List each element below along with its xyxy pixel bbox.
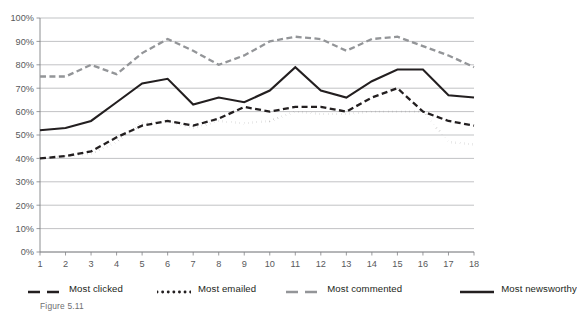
x-axis-tick-label: 2 [63,259,68,269]
x-axis-tick-label: 15 [392,259,402,269]
x-axis-tick-label: 16 [418,259,428,269]
y-axis-tick-label: 30% [16,177,34,187]
legend-swatch-solid-icon [460,283,494,293]
y-axis-tick-label: 70% [16,84,34,94]
x-axis-tick-label: 8 [216,259,221,269]
legend-label: Most newsworthy [501,283,577,294]
x-axis-tick-label: 12 [316,259,326,269]
y-axis-tick-label: 100% [11,13,35,23]
y-axis-ticks: 0%10%20%30%40%50%60%70%80%90%100% [11,13,41,257]
legend-item-most-emailed[interactable]: Most emailed [157,283,256,294]
legend-item-most-newsworthy[interactable]: Most newsworthy [460,283,577,294]
figure-caption: Figure 5.11 [40,301,84,311]
legend-swatch-dashed-icon [28,283,62,293]
legend-item-most-commented[interactable]: Most commented [286,283,402,294]
legend-swatch-dashed-icon [286,283,320,293]
legend-item-most-clicked[interactable]: Most clicked [28,283,123,294]
y-axis-tick-label: 10% [16,224,34,234]
series-line-most-commented [40,37,474,77]
x-axis-tick-label: 7 [191,259,196,269]
y-axis-tick-label: 80% [16,60,34,70]
chart-series-group [40,37,474,159]
x-axis-tick-label: 10 [265,259,275,269]
y-axis-tick-label: 60% [16,107,34,117]
x-axis-tick-label: 17 [443,259,453,269]
x-axis-tick-label: 4 [114,259,119,269]
legend-label: Most clicked [69,283,123,294]
y-axis-tick-label: 0% [21,247,34,257]
x-axis-tick-label: 9 [242,259,247,269]
x-axis-tick-label: 5 [140,259,145,269]
chart-plot-area: 0%10%20%30%40%50%60%70%80%90%100% 123456… [0,0,483,276]
x-axis-tick-label: 6 [165,259,170,269]
chart-gridlines [40,18,474,252]
y-axis-tick-label: 50% [16,130,34,140]
y-axis-tick-label: 90% [16,37,34,47]
x-axis-tick-label: 1 [37,259,42,269]
y-axis-tick-label: 20% [16,201,34,211]
line-chart-svg: 0%10%20%30%40%50%60%70%80%90%100% 123456… [0,0,483,276]
x-axis-tick-label: 13 [341,259,351,269]
x-axis-tick-label: 11 [291,259,301,269]
y-axis-tick-label: 40% [16,154,34,164]
x-axis-ticks: 123456789101112131415161718 [37,252,479,269]
legend-label: Most commented [327,283,402,294]
x-axis-tick-label: 14 [367,259,377,269]
x-axis-tick-label: 3 [88,259,93,269]
legend-swatch-dotted-icon [157,283,191,293]
chart-legend: Most clickedMost emailedMost commentedMo… [0,276,483,300]
legend-label: Most emailed [198,283,256,294]
x-axis-tick-label: 18 [469,259,479,269]
